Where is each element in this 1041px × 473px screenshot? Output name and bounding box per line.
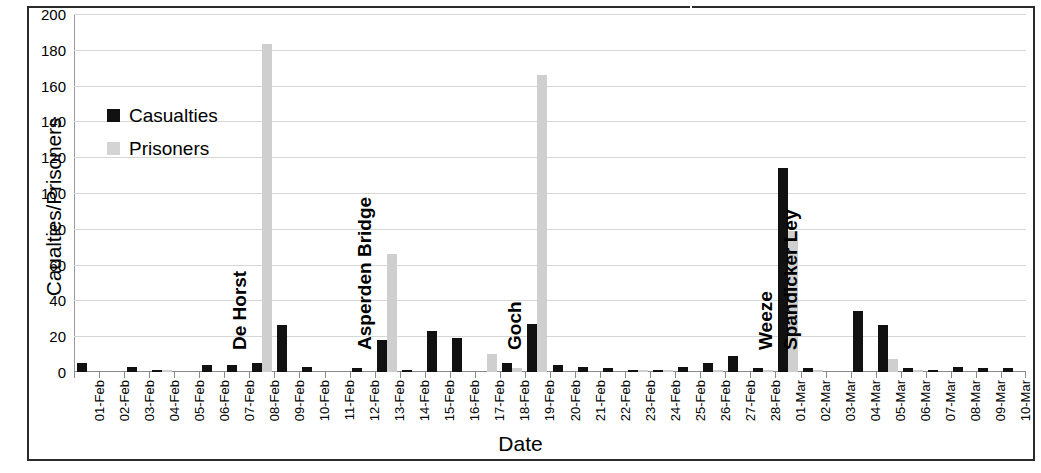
bar-casualties[interactable] — [703, 363, 713, 372]
bar-group[interactable] — [124, 14, 149, 372]
bar-casualties[interactable] — [928, 370, 938, 372]
bar-casualties[interactable] — [803, 368, 813, 372]
bar-group[interactable] — [951, 14, 976, 372]
bar-casualties[interactable] — [127, 367, 137, 372]
bar-casualties[interactable] — [227, 365, 237, 372]
bar-casualties[interactable] — [152, 370, 162, 372]
bar-casualties[interactable] — [728, 356, 738, 372]
bar-casualties[interactable] — [277, 325, 287, 372]
x-axis-tick-label: 25-Feb — [693, 380, 708, 421]
bar-casualties[interactable] — [953, 367, 963, 372]
bar-casualties[interactable] — [603, 368, 613, 372]
bar-casualties[interactable] — [853, 311, 863, 372]
bar-group[interactable] — [274, 14, 299, 372]
bar-casualties[interactable] — [202, 365, 212, 372]
legend-swatch-prisoners-icon — [107, 142, 120, 155]
bar-group[interactable] — [199, 14, 224, 372]
bar-casualties[interactable] — [978, 368, 988, 372]
bar-prisoners[interactable] — [763, 370, 773, 372]
bar-casualties[interactable] — [878, 325, 888, 372]
bar-group[interactable] — [650, 14, 675, 372]
bar-group[interactable] — [625, 14, 650, 372]
bar-prisoners[interactable] — [537, 75, 547, 372]
x-axis-tick-mark — [625, 372, 626, 378]
bar-group[interactable] — [575, 14, 600, 372]
bar-casualties[interactable] — [77, 363, 87, 372]
x-axis-tick-mark — [149, 372, 150, 378]
bar-prisoners[interactable] — [913, 370, 923, 372]
bar-group[interactable] — [1001, 14, 1026, 372]
x-axis-tick-label: 05-Mar — [893, 380, 908, 421]
legend-label-casualties: Casualties — [129, 105, 218, 127]
bar-casualties[interactable] — [252, 363, 262, 372]
x-axis-tick-mark — [976, 372, 977, 378]
bar-group[interactable] — [801, 14, 826, 372]
bar-casualties[interactable] — [527, 324, 537, 372]
bar-group[interactable] — [149, 14, 174, 372]
bar-group[interactable] — [174, 14, 199, 372]
x-axis-tick-mark — [575, 372, 576, 378]
bar-group[interactable] — [851, 14, 876, 372]
bar-group[interactable] — [901, 14, 926, 372]
x-axis-tick-mark — [801, 372, 802, 378]
bar-group[interactable] — [926, 14, 951, 372]
bar-prisoners[interactable] — [663, 370, 673, 372]
bar-prisoners[interactable] — [262, 44, 272, 372]
bar-prisoners[interactable] — [387, 254, 397, 372]
bar-prisoners[interactable] — [713, 370, 723, 372]
bar-group[interactable] — [74, 14, 99, 372]
bar-group[interactable] — [475, 14, 500, 372]
x-axis-tick-mark — [851, 372, 852, 378]
x-axis-tick-mark — [350, 372, 351, 378]
bar-group[interactable] — [450, 14, 475, 372]
bar-group[interactable] — [600, 14, 625, 372]
bar-group[interactable] — [400, 14, 425, 372]
bar-casualties[interactable] — [578, 367, 588, 372]
bar-prisoners[interactable] — [813, 370, 823, 372]
bar-group[interactable] — [876, 14, 901, 372]
bar-casualties[interactable] — [753, 368, 763, 372]
x-axis-tick-mark — [199, 372, 200, 378]
bar-casualties[interactable] — [1003, 368, 1013, 372]
bar-prisoners[interactable] — [888, 359, 898, 372]
bar-casualties[interactable] — [452, 338, 462, 372]
bar-group[interactable] — [299, 14, 324, 372]
bar-casualties[interactable] — [377, 340, 387, 372]
bar-casualties[interactable] — [628, 370, 638, 372]
bar-group[interactable] — [375, 14, 400, 372]
bar-group[interactable] — [525, 14, 550, 372]
bar-group[interactable] — [725, 14, 750, 372]
bar-group[interactable] — [700, 14, 725, 372]
bar-casualties[interactable] — [502, 363, 512, 372]
legend-item-prisoners: Prisoners — [107, 132, 218, 165]
x-axis-tick-label: 01-Mar — [793, 380, 808, 421]
bar-casualties[interactable] — [352, 368, 362, 372]
bar-casualties[interactable] — [402, 370, 412, 372]
x-axis-tick-mark — [325, 372, 326, 378]
bar-group[interactable] — [325, 14, 350, 372]
bar-prisoners[interactable] — [638, 370, 648, 372]
bar-casualties[interactable] — [302, 367, 312, 372]
bar-prisoners[interactable] — [512, 368, 522, 372]
bar-casualties[interactable] — [903, 368, 913, 372]
bar-casualties[interactable] — [427, 331, 437, 372]
bar-casualties[interactable] — [553, 365, 563, 372]
bar-prisoners[interactable] — [487, 354, 497, 372]
x-axis-tick-label: 27-Feb — [743, 380, 758, 421]
bar-prisoners[interactable] — [162, 370, 172, 372]
x-axis-tick-label: 09-Feb — [292, 380, 307, 421]
x-axis-tick-mark — [725, 372, 726, 378]
bar-group[interactable] — [550, 14, 575, 372]
bar-casualties[interactable] — [653, 370, 663, 372]
bar-group[interactable] — [675, 14, 700, 372]
bar-group[interactable] — [826, 14, 851, 372]
bar-group[interactable] — [249, 14, 274, 372]
x-axis-tick-label: 11-Feb — [342, 380, 357, 420]
bar-casualties[interactable] — [678, 367, 688, 372]
bar-group[interactable] — [976, 14, 1001, 372]
bar-group[interactable] — [425, 14, 450, 372]
y-axis-tick-label: 0 — [58, 364, 66, 381]
y-axis-tick-label: 180 — [41, 41, 66, 58]
legend-swatch-casualties-icon — [107, 109, 120, 122]
bar-group[interactable] — [99, 14, 124, 372]
